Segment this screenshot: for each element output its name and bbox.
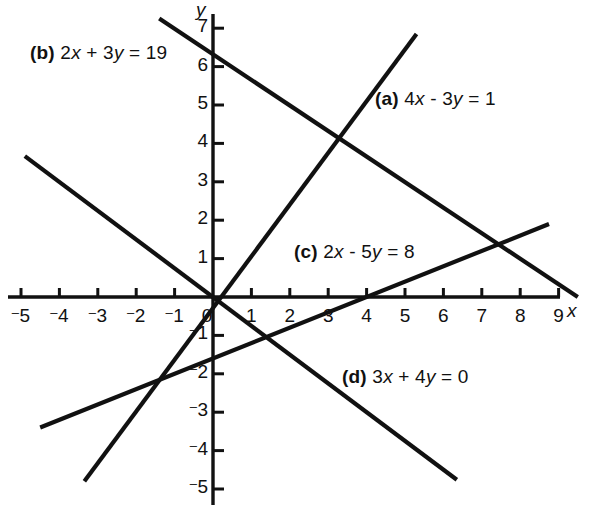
equation-coef2-b: 3	[103, 42, 114, 63]
equation-varx-c: x	[334, 241, 344, 262]
tick-value: 2	[197, 207, 208, 228]
x-tick-label: 5	[390, 305, 420, 327]
equation-coef1-a: 4	[404, 88, 415, 109]
x-tick-label: 3	[313, 305, 343, 327]
equation-op-c: -	[344, 241, 362, 262]
equation-label-a: (a) 4x - 3y = 1	[375, 88, 496, 110]
y-tick-label: 1	[180, 246, 208, 268]
y-tick-label: –3	[180, 399, 208, 421]
equation-tag-a: (a)	[375, 88, 399, 109]
tick-value: 8	[515, 305, 526, 326]
equation-coef1-d: 3	[372, 366, 383, 387]
negative-sign: –	[190, 322, 197, 337]
tick-value: 3	[197, 400, 208, 421]
equation-label-c: (c) 2x - 5y = 8	[294, 241, 415, 263]
x-tick-label: 4	[352, 305, 382, 327]
negative-sign: –	[190, 361, 197, 376]
x-tick-label: 2	[275, 305, 305, 327]
equation-varx-a: x	[415, 88, 425, 109]
x-axis-label: x	[567, 300, 577, 322]
x-tick-label: –5	[6, 305, 36, 327]
negative-sign: –	[190, 438, 197, 453]
y-tick-label: 5	[180, 92, 208, 114]
tick-value: 5	[197, 476, 208, 497]
equation-op-b: +	[81, 42, 103, 63]
y-tick-label: –5	[180, 476, 208, 498]
coordinate-graph-figure: –5–4–3–2–10123456789 7654321–1–2–3–4–5 x…	[0, 0, 611, 523]
tick-value: 4	[197, 130, 208, 151]
negative-sign: –	[50, 305, 57, 320]
tick-value: 9	[553, 305, 564, 326]
equation-op-d: +	[393, 366, 415, 387]
y-tick-label: 3	[180, 169, 208, 191]
equation-rhs-d: = 0	[436, 366, 469, 387]
tick-value: 3	[96, 305, 107, 326]
tick-value: 1	[197, 246, 208, 267]
tick-value: 3	[197, 169, 208, 190]
equation-label-d: (d) 3x + 4y = 0	[342, 366, 469, 388]
x-tick-label: 7	[467, 305, 497, 327]
negative-sign: –	[12, 305, 19, 320]
tick-value: 1	[197, 323, 208, 344]
equation-tag-b: (b)	[30, 42, 55, 63]
equation-vary-a: y	[453, 88, 463, 109]
y-axis-label: y	[196, 0, 206, 21]
tick-value: 1	[246, 305, 257, 326]
equation-rhs-c: = 8	[382, 241, 415, 262]
equation-vary-d: y	[426, 366, 436, 387]
equation-coef2-c: 5	[361, 241, 372, 262]
negative-sign: –	[89, 305, 96, 320]
x-tick-label: 6	[428, 305, 458, 327]
tick-value: 6	[438, 305, 449, 326]
negative-sign: –	[190, 399, 197, 414]
equation-rhs-b: = 19	[124, 42, 168, 63]
y-tick-label: –2	[180, 361, 208, 383]
tick-value: 4	[197, 438, 208, 459]
negative-sign: –	[127, 305, 134, 320]
tick-value: 5	[20, 305, 31, 326]
x-tick-label: –4	[44, 305, 74, 327]
equation-rhs-a: = 1	[463, 88, 496, 109]
tick-value: 5	[400, 305, 411, 326]
equation-tag-d: (d)	[342, 366, 367, 387]
equation-label-b: (b) 2x + 3y = 19	[30, 42, 167, 64]
y-tick-label: 6	[180, 54, 208, 76]
tick-value: 2	[285, 305, 296, 326]
tick-value: 7	[477, 305, 488, 326]
equation-vary-b: y	[114, 42, 124, 63]
y-tick-label: 4	[180, 130, 208, 152]
equation-varx-b: x	[71, 42, 81, 63]
y-tick-label: –1	[180, 322, 208, 344]
y-tick-label: –4	[180, 438, 208, 460]
x-tick-label: 8	[505, 305, 535, 327]
tick-value: 6	[197, 54, 208, 75]
negative-sign: –	[165, 305, 172, 320]
tick-value: 5	[197, 92, 208, 113]
equation-coef1-b: 2	[60, 42, 71, 63]
equation-varx-d: x	[383, 366, 393, 387]
tick-value: 4	[361, 305, 372, 326]
tick-value: 4	[58, 305, 69, 326]
equation-coef2-a: 3	[442, 88, 453, 109]
equation-tag-c: (c)	[294, 241, 318, 262]
negative-sign: –	[190, 476, 197, 491]
x-tick-label: –2	[121, 305, 151, 327]
y-tick-label: 2	[180, 207, 208, 229]
tick-value: 2	[135, 305, 146, 326]
equation-coef2-d: 4	[415, 366, 426, 387]
tick-value: 3	[323, 305, 334, 326]
equation-op-a: -	[425, 88, 443, 109]
x-tick-label: 1	[236, 305, 266, 327]
tick-value: 2	[197, 361, 208, 382]
equation-vary-c: y	[372, 241, 382, 262]
equation-coef1-c: 2	[323, 241, 334, 262]
x-tick-label: –3	[83, 305, 113, 327]
